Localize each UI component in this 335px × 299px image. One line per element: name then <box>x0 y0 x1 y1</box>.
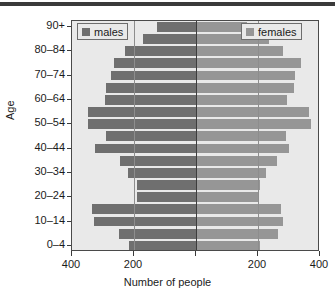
bar-row <box>72 45 318 57</box>
gridline-right-200 <box>258 21 259 250</box>
bar-female <box>196 58 301 68</box>
bar-male <box>120 156 196 166</box>
y-axis-tick-label: 50–54 <box>34 117 65 128</box>
bar-male <box>95 144 196 154</box>
bar-male <box>111 71 196 81</box>
bar-female <box>196 22 247 32</box>
legend-swatch-males-icon <box>82 28 90 36</box>
bar-female <box>196 131 286 141</box>
bar-row <box>72 57 318 69</box>
legend-females-label: females <box>258 26 297 38</box>
bar-row <box>72 130 318 142</box>
bar-male <box>137 192 196 202</box>
legend-males-label: males <box>94 26 123 38</box>
bar-male <box>94 217 196 227</box>
bar-male <box>92 204 196 214</box>
bar-male <box>106 83 196 93</box>
y-axis-tick-label: 80–84 <box>34 44 65 55</box>
bar-row <box>72 191 318 203</box>
legend-swatch-females-icon <box>246 28 254 36</box>
bar-male <box>105 95 196 105</box>
bar-female <box>196 46 283 56</box>
y-axis-tick-label: 90+ <box>46 20 65 31</box>
bar-female <box>196 192 258 202</box>
gridline-left-200 <box>134 21 135 250</box>
bar-female <box>196 83 294 93</box>
bar-female <box>196 95 287 105</box>
bar-female <box>196 204 281 214</box>
bar-male <box>88 107 197 117</box>
top-divider-rule <box>0 2 335 6</box>
x-axis-tick <box>133 251 134 256</box>
bar-male <box>137 180 196 190</box>
zero-axis-line <box>196 21 197 250</box>
bar-male <box>157 22 196 32</box>
x-axis-tick-label: 200 <box>113 258 153 270</box>
bar-male <box>128 168 196 178</box>
y-axis-tick-label: 20–24 <box>34 190 65 201</box>
bar-row <box>72 70 318 82</box>
bar-row <box>72 228 318 240</box>
y-axis-tick-label: 10–14 <box>34 215 65 226</box>
y-axis-tick-label: 70–74 <box>34 69 65 80</box>
bar-male <box>143 34 196 44</box>
bar-row <box>72 155 318 167</box>
bar-female <box>196 241 260 251</box>
y-axis-tick-label: 60–64 <box>34 93 65 104</box>
bar-row <box>72 179 318 191</box>
x-axis-tick <box>71 251 72 256</box>
bar-male <box>114 58 196 68</box>
bar-female <box>196 156 277 166</box>
bar-row <box>72 216 318 228</box>
bar-row <box>72 118 318 130</box>
x-axis-tick-label: 400 <box>51 258 91 270</box>
bar-row <box>72 106 318 118</box>
bar-female <box>196 144 289 154</box>
bar-male <box>125 46 196 56</box>
bar-row <box>72 94 318 106</box>
x-axis-tick <box>319 251 320 256</box>
bar-row <box>72 82 318 94</box>
y-axis-tick-label: 40–44 <box>34 142 65 153</box>
bar-row <box>72 240 318 251</box>
y-axis-tick-label: 0–4 <box>47 239 65 250</box>
x-axis-title: Number of people <box>0 276 335 288</box>
bar-male <box>129 241 196 251</box>
legend-females: females <box>241 23 302 40</box>
bar-female <box>196 107 309 117</box>
x-axis-tick-label: 200 <box>237 258 277 270</box>
population-pyramid-figure: Age 0–410–1420–2430–3440–4450–5460–6470–… <box>0 0 335 299</box>
bar-female <box>196 119 311 129</box>
bar-row <box>72 203 318 215</box>
bar-female <box>196 180 260 190</box>
plot-area <box>71 20 319 251</box>
bar-female <box>196 71 295 81</box>
bar-female <box>196 217 283 227</box>
bar-female <box>196 229 278 239</box>
x-axis-tick <box>257 251 258 256</box>
legend-males: males <box>77 23 128 40</box>
bar-male <box>106 131 196 141</box>
bar-row <box>72 143 318 155</box>
y-axis-tick-label: 30–34 <box>34 166 65 177</box>
bar-male <box>119 229 197 239</box>
bar-female <box>196 168 266 178</box>
x-axis-tick-label: 400 <box>299 258 335 270</box>
y-axis-title: Age <box>4 100 16 120</box>
bar-male <box>88 119 197 129</box>
x-axis-tick <box>195 251 196 256</box>
bar-row <box>72 167 318 179</box>
